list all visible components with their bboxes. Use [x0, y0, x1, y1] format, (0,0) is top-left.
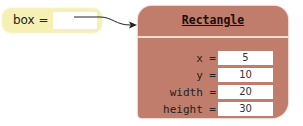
- header-divider: [138, 36, 288, 38]
- field-row: x = 5: [138, 51, 288, 66]
- field-row: height = 30: [138, 102, 288, 117]
- field-name: width =: [170, 85, 216, 100]
- class-name: Rectangle: [138, 13, 288, 27]
- field-value: 30: [218, 102, 273, 116]
- field-value: 5: [218, 51, 273, 65]
- field-value: 20: [218, 85, 273, 99]
- field-value: 10: [218, 68, 273, 82]
- field-name: height =: [163, 102, 216, 117]
- field-name: x =: [196, 51, 216, 66]
- arrowhead-icon: [129, 22, 137, 29]
- field-row: width = 20: [138, 85, 288, 100]
- reference-arrow-line: [74, 17, 130, 25]
- object-box: Rectangle x = 5 y = 10 width = 20 height…: [138, 6, 288, 118]
- field-row: y = 10: [138, 68, 288, 83]
- field-name: y =: [196, 68, 216, 83]
